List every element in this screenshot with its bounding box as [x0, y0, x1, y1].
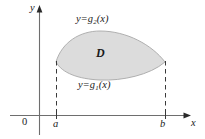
x-tick-label-b: b	[160, 119, 165, 130]
lower-curve-label-equals: =	[83, 79, 89, 90]
upper-curve-label-equals: =	[81, 13, 87, 24]
figure-region-between-curves: y=g2(x) y=g1(x) D y x 0 a b	[0, 0, 205, 139]
x-axis-arrowhead	[184, 113, 192, 119]
region-d-shaded-area	[56, 31, 165, 80]
y-axis-label: y	[30, 3, 35, 14]
upper-curve-label: y=g2(x)	[76, 14, 109, 25]
upper-curve-label-subscript: 2	[93, 18, 97, 25]
x-axis-label: x	[191, 118, 196, 129]
lower-curve-label-subscript: 1	[95, 84, 99, 91]
origin-label: 0	[22, 117, 27, 128]
y-axis-arrowhead	[37, 5, 43, 13]
upper-curve-label-arg: (x)	[97, 13, 109, 24]
x-tick-label-a: a	[53, 119, 58, 130]
lower-curve-label-arg: (x)	[99, 79, 111, 90]
region-label-d: D	[96, 47, 105, 59]
lower-curve-label: y=g1(x)	[78, 80, 111, 91]
